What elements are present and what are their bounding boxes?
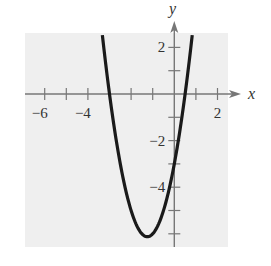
x-tick-label: −4: [75, 105, 91, 121]
x-axis-label: x: [247, 85, 255, 102]
plot-background: [25, 33, 228, 247]
y-tick-label: −2: [149, 133, 165, 149]
y-axis-label: y: [167, 0, 177, 18]
y-tick-label: −4: [149, 179, 165, 195]
x-tick-label: −6: [32, 105, 48, 121]
parabola-chart: −6−422−2−4 x y: [0, 0, 271, 266]
x-tick-label: 2: [214, 105, 222, 121]
y-tick-label: 2: [158, 39, 166, 55]
